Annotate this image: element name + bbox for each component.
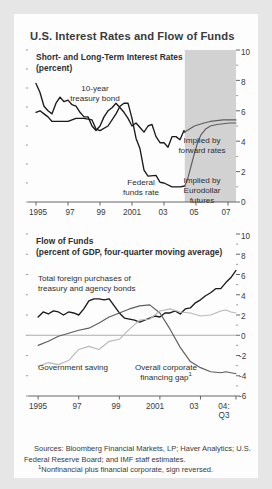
annotation-foreign-purchases: Total foreign purchases oftreasury and a… (38, 274, 158, 294)
sources-line-1: Sources: Bloomberg Financial Markets, LP… (24, 444, 252, 465)
p2-ytick-6: 6 (241, 272, 246, 281)
p2-xtick-04q3-l2: Q3 (219, 411, 230, 420)
p2-xtick-1995: 1995 (18, 402, 58, 411)
p2-ytick-10: 10 (241, 232, 250, 241)
figure-title: U.S. Interest Rates and Flow of Funds (30, 30, 234, 42)
p2-ytick-m4: -4 (239, 372, 246, 381)
annotation-eurodollar-futures: Implied byEurodollarfutures (174, 176, 230, 206)
p1-xtick-07: 07 (206, 208, 246, 217)
sources-note: Sources: Bloomberg Financial Markets, LP… (24, 444, 252, 476)
p1-ytick-0: 0 (241, 198, 246, 207)
p1-ytick-6: 6 (241, 108, 246, 117)
annotation-forward-rates: Implied byforward rates (172, 136, 232, 156)
p1-ytick-4: 4 (241, 138, 246, 147)
chart-panel-flow-of-funds: Flow of Funds (percent of GDP, four-quar… (14, 236, 258, 436)
p2-xtick-2001: 2001 (135, 402, 175, 411)
footnote-marker-1: 1 (188, 371, 191, 377)
p2-ytick-8: 8 (241, 252, 246, 261)
p2-ytick-4: 4 (241, 292, 246, 301)
p2-xtick-97: 97 (57, 402, 97, 411)
p2-ytick-m6: -6 (239, 392, 246, 401)
p2-xtick-04q3: 04:Q3 (204, 402, 244, 420)
annotation-fed-funds: Federalfunds rate (109, 178, 173, 198)
p1-ytick-8: 8 (241, 78, 246, 87)
figure-card: U.S. Interest Rates and Flow of Funds Sh… (14, 14, 258, 478)
p2-xtick-99: 99 (96, 402, 136, 411)
annotation-10yr-treasury: 10-yeartreasury bond (58, 84, 132, 104)
chart-panel-interest-rates: Short- and Long-Term Interest Rates (per… (14, 52, 258, 232)
sources-line-2-text: Nonfinancial plus financial corporate, s… (41, 465, 213, 474)
p1-ytick-2: 2 (241, 168, 246, 177)
sources-line-2: 1Nonfinancial plus financial corporate, … (24, 465, 252, 476)
p2-xtick-04q3-l1: 04: (218, 402, 229, 411)
annotation-government-saving: Government saving (30, 363, 116, 373)
annotation-corporate-financing-gap: Overall corporatefinancing gap1 (124, 363, 208, 383)
p2-ytick-m2: -2 (239, 352, 246, 361)
p2-ytick-2: 2 (241, 312, 246, 321)
p2-ytick-0: 0 (241, 332, 246, 341)
p1-ytick-10: 10 (241, 48, 250, 57)
